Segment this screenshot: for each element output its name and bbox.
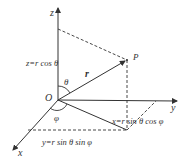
z-axis-label: z: [49, 7, 54, 18]
x-equation: x=r sin θ cos φ: [111, 116, 164, 126]
y-equation: y=r sin θ sin φ: [41, 137, 92, 147]
z-equation: z=r cos θ: [25, 58, 58, 68]
radius-label: r: [85, 68, 89, 79]
point-p: [126, 59, 128, 61]
phi-arc: [50, 104, 67, 110]
phi-label: φ: [54, 113, 59, 123]
origin-label: O: [45, 92, 52, 103]
theta-arc: [58, 86, 70, 93]
spherical-coordinates-diagram: z y x O P r θ φ z=r cos θ x=r sin θ cos …: [0, 0, 184, 158]
y-axis: [58, 100, 177, 101]
x-axis-label: x: [17, 147, 23, 158]
y-axis-label: y: [170, 102, 176, 113]
theta-label: θ: [64, 77, 69, 87]
point-label: P: [132, 52, 139, 62]
